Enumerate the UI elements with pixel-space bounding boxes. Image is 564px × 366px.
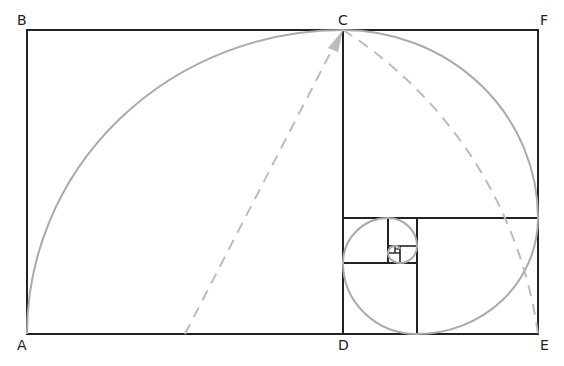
arrowhead-icon bbox=[328, 30, 343, 52]
golden-spiral-diagram bbox=[0, 0, 564, 366]
label-a: A bbox=[17, 338, 27, 352]
outer-rectangle bbox=[27, 30, 538, 334]
dashed-arc-c-to-e bbox=[343, 30, 538, 334]
dashed-line-to-c bbox=[185, 42, 336, 334]
label-b: B bbox=[17, 13, 27, 27]
label-d: D bbox=[338, 338, 349, 352]
label-f: F bbox=[540, 13, 548, 27]
label-e: E bbox=[540, 338, 549, 352]
golden-spiral bbox=[27, 30, 538, 334]
label-c: C bbox=[338, 13, 348, 27]
